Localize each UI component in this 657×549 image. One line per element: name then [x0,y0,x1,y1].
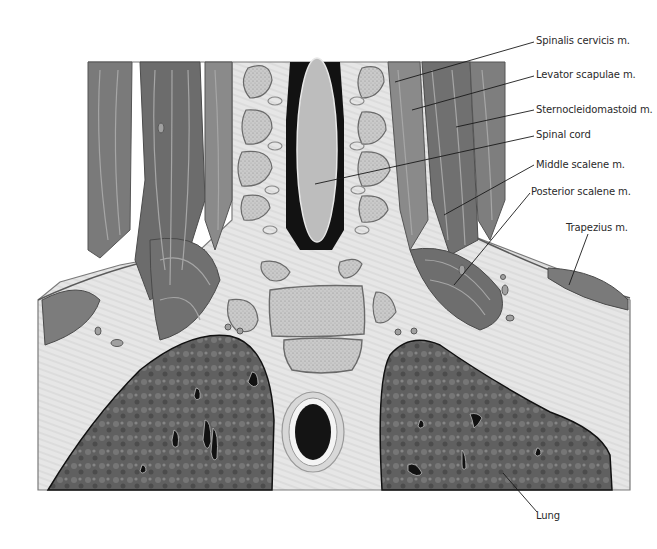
label-posterior-scalene: Posterior scalene m. [531,186,631,197]
spinal-canal [286,58,344,250]
label-spinal-cord: Spinal cord [536,129,591,140]
label-levator-scapulae: Levator scapulae m. [536,69,636,80]
anatomy-illustration [0,0,657,549]
trachea [282,392,344,472]
label-sternocleidomastoid: Sternocleidomastoid m. [536,104,653,115]
label-spinalis-cervicis: Spinalis cervicis m. [536,35,630,46]
label-lung: Lung [536,510,560,521]
label-middle-scalene: Middle scalene m. [536,159,625,170]
spinal-cord [297,58,337,242]
anatomy-cross-section-figure: Spinalis cervicis m. Levator scapulae m.… [0,0,657,549]
label-trapezius: Trapezius m. [566,222,628,233]
